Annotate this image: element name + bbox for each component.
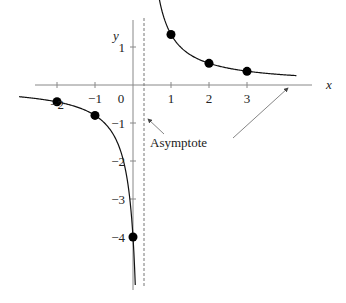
data-point: [167, 30, 176, 39]
y-tick-label: −1: [111, 116, 125, 131]
origin-label: 0: [118, 91, 125, 106]
x-tick-label: 2: [206, 91, 213, 106]
data-point: [205, 59, 214, 68]
y-tick-label: −3: [111, 192, 125, 207]
asymptote-arrow-horizontal: [233, 88, 288, 138]
x-axis-label: x: [325, 77, 332, 92]
x-tick-label: 1: [168, 91, 175, 106]
chart: −2−112301−1−2−3−4xyAsymptote: [0, 0, 346, 303]
asymptote-arrow-vertical: [148, 119, 164, 134]
curve-right-branch: [154, 0, 296, 76]
y-axis-label: y: [111, 28, 119, 43]
y-tick-label: −4: [111, 230, 125, 245]
data-point: [243, 67, 252, 76]
y-tick-label: −2: [111, 154, 125, 169]
y-tick-label: 1: [119, 40, 126, 55]
asymptote-annotation-label: Asymptote: [150, 135, 207, 150]
data-point: [129, 233, 138, 242]
x-tick-label: −1: [88, 91, 102, 106]
x-tick-label: −2: [50, 97, 64, 112]
data-point: [91, 111, 100, 120]
x-tick-label: 3: [244, 91, 251, 106]
